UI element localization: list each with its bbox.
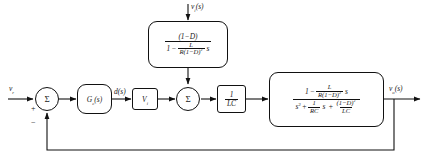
controller-label: Gc(s) [87,95,102,104]
sigma-glyph-2: Σ [185,94,190,104]
plant-expression: 1 − L R(1−D)2 s s2 + 1 RC s + [293,84,359,115]
lc-gain-block[interactable]: 1 LC [217,85,246,113]
disturbance-input-label: vi(s) [191,2,204,11]
summing-junction-feedforward[interactable]: Σ [176,87,200,111]
feedforward-numerator: (1−D) [176,33,199,41]
summer1-minus-sign: − [31,118,36,127]
controller-block[interactable]: Gc(s) [77,84,112,114]
sigma-glyph: Σ [44,94,49,104]
plant-numerator: 1 − L R(1−D)2 s [303,84,350,99]
plant-transfer-function-block[interactable]: 1 − L R(1−D)2 s s2 + 1 RC s + [269,72,384,127]
block-diagram: Σ + − vr Gc(s) d(s) Vi Σ 1 LC vi(s) [0,0,427,162]
feedforward-transfer-function-block[interactable]: (1−D) 1 − L R(1−D)2 s [148,21,228,68]
output-signal-label: vo(s) [389,84,403,93]
lc-gain-label: 1 LC [225,91,238,108]
input-gain-label: Vi [142,95,148,104]
summing-junction-error[interactable]: Σ [35,87,59,111]
feedforward-denominator: 1 − L R(1−D)2 s [165,41,212,57]
summer1-plus-sign: + [31,104,36,113]
duty-cycle-signal-label: d(s) [114,87,126,96]
input-voltage-gain-block[interactable]: Vi [132,88,158,110]
plant-denominator: s2 + 1 RC s + (1−D)2 LC [293,99,359,115]
reference-input-label: vr [9,84,14,93]
feedforward-expression: (1−D) 1 − L R(1−D)2 s [165,33,212,57]
